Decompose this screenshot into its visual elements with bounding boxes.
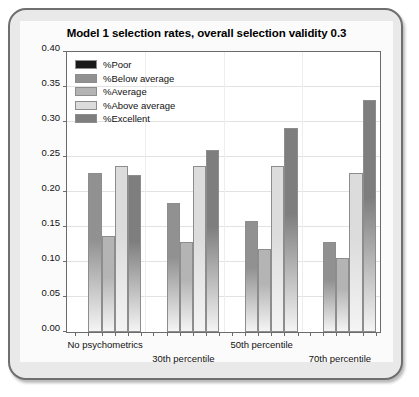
x-tick-mark <box>284 332 285 336</box>
bar <box>115 166 128 332</box>
legend-label: %Poor <box>103 59 132 70</box>
bar <box>245 221 258 332</box>
legend-item: %Poor <box>75 58 175 72</box>
x-tick-mark <box>115 332 116 336</box>
bar <box>336 258 349 332</box>
x-tick-mark <box>141 332 142 336</box>
bar <box>167 203 180 332</box>
y-axis-tick-label: 0.40 <box>20 42 60 53</box>
y-tick-mark <box>63 296 67 297</box>
x-tick-mark <box>310 332 311 336</box>
y-tick-mark <box>63 121 67 122</box>
y-tick-mark <box>63 86 67 87</box>
bar <box>102 236 115 332</box>
x-tick-mark <box>167 332 168 336</box>
bar <box>128 175 141 333</box>
x-tick-mark <box>363 332 364 336</box>
y-tick-mark <box>63 226 67 227</box>
bar <box>349 173 362 332</box>
legend-item: %Above average <box>75 99 175 113</box>
vertical-gridline <box>224 52 225 332</box>
x-tick-mark <box>153 332 154 336</box>
x-tick-mark <box>271 332 272 336</box>
legend-label: %Above average <box>103 100 175 111</box>
x-tick-mark <box>206 332 207 336</box>
y-axis-tick-label: 0.10 <box>20 252 60 263</box>
x-axis-category-label: 50th percentile <box>230 339 292 350</box>
y-tick-mark <box>63 156 67 157</box>
x-tick-mark <box>128 332 129 336</box>
bar <box>88 173 101 332</box>
bar <box>193 166 206 332</box>
legend-label: %Average <box>103 86 147 97</box>
chart-title: Model 1 selection rates, overall selecti… <box>20 27 393 39</box>
x-tick-mark <box>258 332 259 336</box>
x-tick-mark <box>336 332 337 336</box>
x-tick-mark <box>219 332 220 336</box>
bar <box>258 249 271 332</box>
y-axis-tick-label: 0.30 <box>20 112 60 123</box>
y-axis-tick-label: 0.25 <box>20 147 60 158</box>
x-tick-mark <box>102 332 103 336</box>
legend-swatch-icon <box>75 101 97 110</box>
legend-label: %Below average <box>103 73 174 84</box>
x-axis-category-label: No psychometrics <box>67 339 143 350</box>
x-tick-mark <box>88 332 89 336</box>
legend-swatch-icon <box>75 74 97 83</box>
legend-swatch-icon <box>75 60 97 69</box>
legend-label: %Excellent <box>103 113 150 124</box>
chart-frame: Model 1 selection rates, overall selecti… <box>8 8 403 380</box>
y-tick-mark <box>63 331 67 332</box>
vertical-gridline <box>302 52 303 332</box>
bar <box>284 128 297 332</box>
y-axis-tick-label: 0.20 <box>20 182 60 193</box>
bar <box>363 100 376 332</box>
x-axis-category-label: 30th percentile <box>152 353 214 364</box>
bar <box>180 242 193 332</box>
bar <box>206 150 219 332</box>
x-tick-mark <box>245 332 246 336</box>
y-tick-mark <box>63 261 67 262</box>
x-axis-category-label: 70th percentile <box>309 353 371 364</box>
y-axis-tick-label: 0.15 <box>20 217 60 228</box>
y-tick-mark <box>63 51 67 52</box>
x-tick-mark <box>75 332 76 336</box>
y-axis-tick-label: 0.35 <box>20 77 60 88</box>
x-tick-mark <box>193 332 194 336</box>
legend-item: %Below average <box>75 72 175 86</box>
x-tick-mark <box>376 332 377 336</box>
y-axis-tick-label: 0.05 <box>20 287 60 298</box>
bar <box>323 242 336 332</box>
x-tick-mark <box>180 332 181 336</box>
y-tick-mark <box>63 191 67 192</box>
legend-item: %Excellent <box>75 112 175 126</box>
x-tick-mark <box>349 332 350 336</box>
bar <box>271 166 284 332</box>
legend-swatch-icon <box>75 114 97 123</box>
x-tick-mark <box>323 332 324 336</box>
y-axis-tick-label: 0.00 <box>20 322 60 333</box>
legend-swatch-icon <box>75 87 97 96</box>
chart-panel: Model 1 selection rates, overall selecti… <box>20 21 393 362</box>
plot-area: 0.000.050.100.150.200.250.300.350.40 %Po… <box>66 51 381 333</box>
chart-legend: %Poor%Below average%Average%Above averag… <box>75 58 175 126</box>
legend-item: %Average <box>75 85 175 99</box>
x-tick-mark <box>232 332 233 336</box>
x-tick-mark <box>298 332 299 336</box>
